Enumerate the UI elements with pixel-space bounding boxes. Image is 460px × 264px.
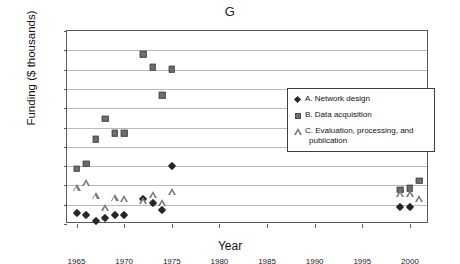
- data-point-b: [83, 160, 90, 167]
- data-point-b: [102, 116, 109, 123]
- x-tick-mark: [172, 224, 173, 228]
- data-point-a: [82, 211, 90, 219]
- data-point-c: [92, 199, 100, 206]
- triangle-marker-icon: [293, 126, 304, 136]
- data-point-b: [92, 136, 99, 143]
- x-tick-label: 1970: [104, 257, 144, 264]
- data-point-c: [120, 202, 128, 209]
- data-point-c: [149, 198, 157, 205]
- plot-area: 02,0004,0006,0008,00010,00012,00014,0001…: [66, 30, 428, 223]
- legend-label-c: C. Evaluation, processing, andpublicatio…: [305, 126, 430, 146]
- y-tick-mark: [64, 224, 67, 225]
- y-tick-mark: [64, 166, 67, 167]
- data-point-a: [168, 162, 176, 170]
- data-point-a: [110, 211, 118, 219]
- x-tick-mark: [362, 224, 363, 228]
- y-tick-mark: [64, 147, 67, 148]
- y-tick-mark: [64, 185, 67, 186]
- data-point-c: [111, 201, 119, 208]
- square-marker-icon: [293, 110, 304, 120]
- legend-item-a: A. Network design: [293, 94, 430, 104]
- x-tick-label: 1995: [342, 257, 382, 264]
- data-point-c: [139, 204, 147, 211]
- x-tick-mark: [219, 224, 220, 228]
- data-point-b: [416, 177, 423, 184]
- y-tick-mark: [64, 108, 67, 109]
- data-point-a: [72, 209, 80, 217]
- x-tick-label: 1975: [152, 257, 192, 264]
- x-tick-mark: [315, 224, 316, 228]
- data-point-b: [159, 92, 166, 99]
- data-point-b: [149, 64, 156, 71]
- x-tick-mark: [124, 224, 125, 228]
- diamond-marker-icon: [293, 94, 304, 104]
- y-tick-mark: [64, 70, 67, 71]
- x-tick-mark: [267, 224, 268, 228]
- gridline: [67, 166, 427, 167]
- gridline: [67, 50, 427, 51]
- gridline: [67, 70, 427, 71]
- x-tick-label: 1980: [199, 257, 239, 264]
- data-point-a: [91, 216, 99, 224]
- data-point-c: [406, 197, 414, 204]
- data-point-c: [101, 211, 109, 218]
- data-point-b: [73, 165, 80, 172]
- legend-label-a: A. Network design: [305, 94, 430, 104]
- chart-legend: A. Network design B. Data acquisition C.…: [287, 88, 435, 152]
- data-point-c: [168, 195, 176, 202]
- data-point-c: [73, 191, 81, 198]
- data-point-c: [415, 202, 423, 209]
- data-point-b: [140, 51, 147, 58]
- y-tick-mark: [64, 50, 67, 51]
- data-point-b: [121, 130, 128, 137]
- x-axis-title: Year: [0, 239, 460, 253]
- x-tick-label: 2000: [390, 257, 430, 264]
- y-tick-mark: [64, 205, 67, 206]
- legend-item-b: B. Data acquisition: [293, 110, 430, 120]
- x-tick-label: 1985: [247, 257, 287, 264]
- data-point-c: [158, 206, 166, 213]
- y-axis-title: Funding ($ thousands): [25, 0, 37, 143]
- x-tick-mark: [77, 224, 78, 228]
- y-tick-mark: [64, 89, 67, 90]
- y-tick-mark: [64, 128, 67, 129]
- data-point-b: [111, 130, 118, 137]
- x-tick-label: 1990: [295, 257, 335, 264]
- data-point-b: [169, 66, 176, 73]
- legend-label-b: B. Data acquisition: [305, 110, 430, 120]
- legend-label-c-line2: publication: [305, 136, 430, 146]
- gridline: [67, 185, 427, 186]
- y-tick-mark: [64, 31, 67, 32]
- legend-label-c-line1: C. Evaluation, processing, and: [305, 126, 414, 135]
- chart-figure: G Funding ($ thousands) Year 02,0004,000…: [0, 0, 460, 264]
- x-tick-label: 1965: [57, 257, 97, 264]
- data-point-c: [396, 197, 404, 204]
- legend-item-c: C. Evaluation, processing, andpublicatio…: [293, 126, 430, 146]
- data-point-a: [120, 211, 128, 219]
- data-point-c: [82, 186, 90, 193]
- chart-title: G: [0, 4, 460, 19]
- x-tick-mark: [410, 224, 411, 228]
